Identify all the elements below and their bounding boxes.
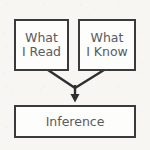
node-what-i-read-line1: What — [25, 31, 58, 45]
node-what-i-read[interactable]: What I Read — [14, 19, 69, 71]
node-what-i-know[interactable]: What I Know — [78, 19, 136, 71]
node-what-i-read-line2: I Read — [22, 45, 61, 59]
node-inference-label: Inference — [46, 115, 105, 129]
arrowhead-down-icon — [71, 94, 80, 103]
connector-read-to-merge — [48, 70, 75, 88]
node-inference[interactable]: Inference — [14, 105, 136, 138]
node-what-i-know-line2: I Know — [86, 45, 128, 59]
connector-know-to-merge — [75, 70, 104, 88]
diagram-canvas: What I Read What I Know Inference — [0, 0, 150, 150]
node-what-i-know-line1: What — [91, 31, 124, 45]
